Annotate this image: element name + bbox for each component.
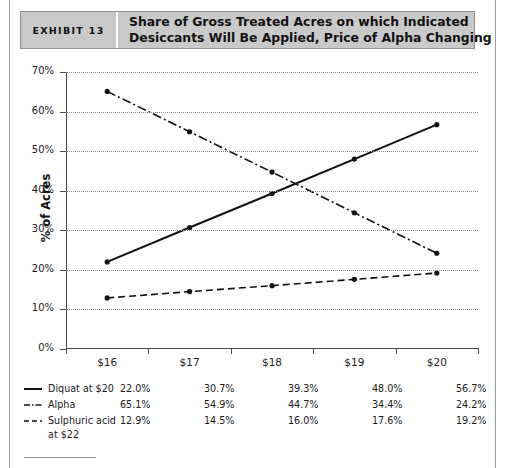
table-cell-value: 19.2% [456,413,505,429]
table-cell-value: 22.0% [120,381,204,397]
data-point [434,270,439,275]
gridline-30% [66,230,478,231]
table-cell-value: 14.5% [204,413,288,429]
table-cell-value: 12.9% [120,413,204,429]
y-axis-title: % of Acres [39,148,53,268]
x-tick [148,348,149,354]
table-row: Sulphuric acid12.9%14.5%16.0%17.6%19.2% [24,413,476,429]
y-tick-label: 30% [2,223,54,234]
data-point [187,289,192,294]
data-point [269,283,274,288]
exhibit-number-cell: EXHIBIT 13 [21,12,118,48]
plot-area [66,72,478,348]
page-title-line-1: Share of Gross Treated Acres on which In… [129,14,492,30]
gridline-20% [66,270,478,271]
table-cell-value: 56.7% [456,381,505,397]
legend-series-name: Sulphuric acid [48,413,120,429]
table-cell-value: 44.7% [288,397,372,413]
data-point [105,259,110,264]
table-cell-value: 30.7% [204,381,288,397]
y-tick-label: 0% [2,342,54,353]
x-tick [313,348,314,354]
y-tick-label: 40% [2,184,54,195]
x-tick-label: $17 [155,356,225,368]
exhibit-label: EXHIBIT 13 [32,25,104,36]
x-tick [231,348,232,354]
table-cell-value: 39.3% [288,381,372,397]
x-tick [478,348,479,354]
y-tick [60,191,66,192]
series-svg [66,72,478,349]
page-title-line-2: Desiccants Will Be Applied, Price of Alp… [129,30,492,46]
exhibit-header: EXHIBIT 13 Share of Gross Treated Acres … [20,11,475,49]
table-cell-value: 24.2% [456,397,505,413]
table-cell-value: 17.6% [372,413,456,429]
y-tick-label: 20% [2,263,54,274]
x-tick-label: $19 [319,356,389,368]
y-tick [60,270,66,271]
y-tick [60,72,66,73]
data-point [434,251,439,256]
x-tick [396,348,397,354]
gridline-40% [66,191,478,192]
table-cell-value: 34.4% [372,397,456,413]
legend-series-name: Alpha [48,397,120,413]
gridline-60% [66,112,478,113]
y-tick-label: 60% [2,105,54,116]
chart-area: % of Acres 0%10%20%30%40%50%60%70%$16$17… [0,55,505,365]
x-tick-label: $20 [402,356,472,368]
y-tick [60,309,66,310]
series-name-continuation: at $22 [24,429,79,440]
table-cell-value: 16.0% [288,413,372,429]
data-point [269,170,274,175]
table-cell-value: 54.9% [204,397,288,413]
table-cell-value: 65.1% [120,397,204,413]
y-tick-label: 10% [2,302,54,313]
y-tick [60,112,66,113]
x-tick-label: $18 [237,356,307,368]
legend-line-icon [24,413,48,429]
exhibit-title-cell: Share of Gross Treated Acres on which In… [118,12,492,48]
gridline-50% [66,151,478,152]
legend-line-icon [24,397,48,413]
series-data-table: Diquat at $2022.0%30.7%39.3%48.0%56.7%Al… [24,381,476,429]
x-tick-label: $16 [72,356,142,368]
legend-series-name: Diquat at $20 [48,381,120,397]
data-point [187,129,192,134]
footer-rule [24,457,96,458]
table-cell-value: 48.0% [372,381,456,397]
y-tick [60,151,66,152]
data-point [105,89,110,94]
legend-line-icon [24,381,48,397]
data-point [105,295,110,300]
data-point [352,210,357,215]
x-tick [66,348,67,354]
table-row: Alpha65.1%54.9%44.7%34.4%24.2% [24,397,476,413]
data-point [352,156,357,161]
y-tick [60,230,66,231]
gridline-10% [66,309,478,310]
gridline-70% [66,72,478,73]
data-point [352,277,357,282]
table-row: Diquat at $2022.0%30.7%39.3%48.0%56.7% [24,381,476,397]
y-tick-label: 70% [2,65,54,76]
data-point [434,122,439,127]
y-tick-label: 50% [2,144,54,155]
